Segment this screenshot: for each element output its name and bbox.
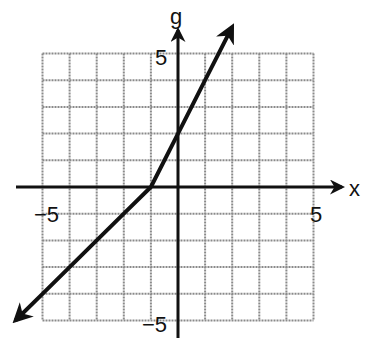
x-tick-neg5: −5 — [34, 202, 59, 227]
y-axis-label: g — [170, 4, 182, 29]
axes — [16, 30, 342, 338]
y-tick-5: 5 — [155, 45, 167, 70]
y-tick-neg5: −5 — [142, 312, 167, 337]
function-graph: g x −5 5 5 −5 — [0, 0, 367, 338]
x-axis-label: x — [349, 176, 360, 201]
x-tick-5: 5 — [310, 202, 322, 227]
